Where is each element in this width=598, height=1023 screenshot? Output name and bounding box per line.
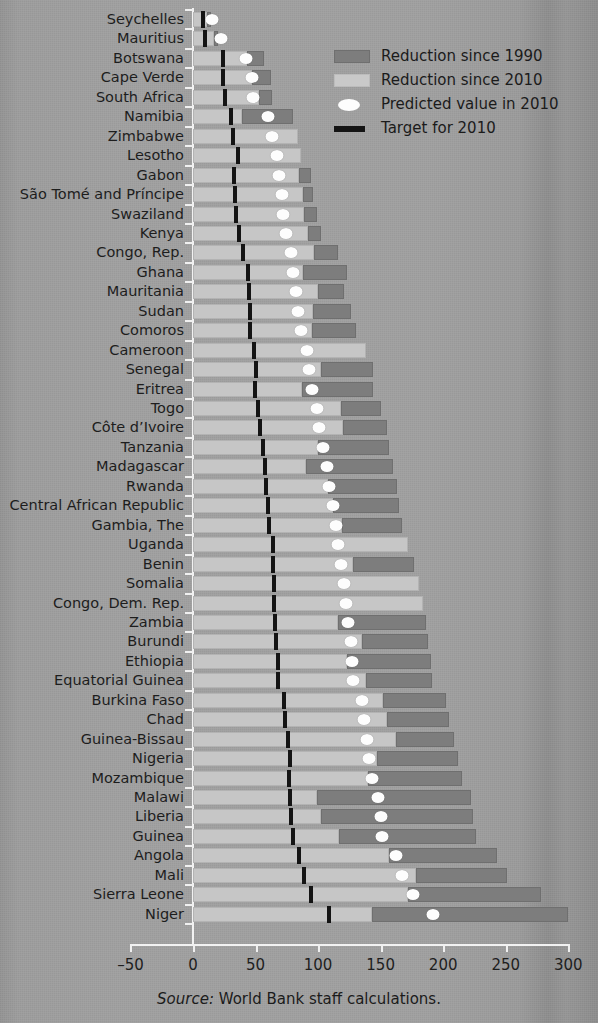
target-2010-marker (273, 614, 277, 631)
x-axis-tick-label: 0 (188, 956, 198, 974)
target-2010-marker (203, 30, 207, 47)
bar-segment-reduction-1990 (377, 751, 458, 766)
source-text: World Bank staff calculations. (214, 990, 441, 1008)
category-label: Burundi (0, 632, 184, 651)
category-label: Ethiopia (0, 652, 184, 671)
predicted-2010-marker (345, 656, 358, 667)
bar-segment-reduction-1990 (362, 634, 428, 649)
bar-group (193, 187, 313, 202)
category-label: Côte d’Ivoire (0, 418, 184, 437)
legend-item-reduction-2010: Reduction since 2010 (334, 68, 574, 92)
x-axis-tick (130, 944, 132, 952)
target-2010-marker (271, 556, 275, 573)
bar-segment-reduction-1990 (347, 654, 431, 669)
legend-label-reduction-1990: Reduction since 1990 (381, 47, 543, 65)
bar-group (193, 207, 317, 222)
predicted-2010-marker (360, 734, 373, 745)
bar-segment-reduction-1990 (353, 557, 414, 572)
target-2010-marker (221, 69, 225, 86)
target-2010-marker (233, 186, 237, 203)
bar-row: Benin (0, 555, 598, 574)
category-label: Seychelles (0, 10, 184, 29)
predicted-2010-marker (289, 286, 302, 297)
bar-segment-reduction-1990 (387, 712, 450, 727)
bar-row: Gabon (0, 166, 598, 185)
bar-group (193, 479, 397, 494)
category-label: Swaziland (0, 205, 184, 224)
bar-row: Côte d’Ivoire (0, 418, 598, 437)
target-2010-marker (246, 264, 250, 281)
predicted-2010-marker (277, 209, 290, 220)
target-2010-marker (237, 225, 241, 242)
bar-segment-reduction-1990 (303, 265, 347, 280)
predicted-2010-marker (375, 831, 388, 842)
bar-row: Mauritania (0, 282, 598, 301)
predicted-2010-marker (317, 442, 330, 453)
target-2010-marker (248, 303, 252, 320)
predicted-2010-marker (372, 792, 385, 803)
bar-group (193, 51, 264, 66)
bar-group (193, 907, 568, 922)
bar-segment-reduction-1990 (321, 362, 374, 377)
x-axis-tick-label: 50 (246, 956, 265, 974)
target-2010-marker (263, 458, 267, 475)
category-label: Equatorial Guinea (0, 671, 184, 690)
target-2010-marker (252, 342, 256, 359)
bar-group (193, 829, 476, 844)
bar-group (193, 693, 446, 708)
bar-segment-reduction-2010 (193, 654, 347, 669)
category-label: Central African Republic (0, 496, 184, 515)
predicted-2010-marker (355, 695, 368, 706)
bar-segment-reduction-1990 (313, 304, 351, 319)
bar-segment-reduction-1990 (304, 207, 317, 222)
predicted-2010-marker (395, 870, 408, 881)
bar-group (193, 70, 271, 85)
bar-row: Comoros (0, 321, 598, 340)
category-label: Angola (0, 846, 184, 865)
bar-group (193, 771, 462, 786)
category-label: Madagascar (0, 457, 184, 476)
target-2010-marker (276, 653, 280, 670)
bar-segment-reduction-2010 (193, 751, 377, 766)
category-label: South Africa (0, 88, 184, 107)
bar-group (193, 226, 321, 241)
bar-segment-reduction-1990 (317, 790, 471, 805)
bar-row: Seychelles (0, 10, 598, 29)
bar-group (193, 304, 351, 319)
bar-group (193, 168, 311, 183)
bar-group (193, 809, 473, 824)
source-prefix: Source: (157, 990, 214, 1008)
bar-segment-reduction-2010 (193, 848, 389, 863)
predicted-2010-marker (407, 889, 420, 900)
bar-row: Guinea (0, 827, 598, 846)
category-label: Botswana (0, 49, 184, 68)
bar-segment-reduction-1990 (318, 284, 344, 299)
bar-group (193, 751, 458, 766)
bar-segment-reduction-1990 (343, 420, 387, 435)
target-2010-marker (223, 89, 227, 106)
x-axis-tick-label: 250 (491, 956, 520, 974)
bar-segment-reduction-2010 (193, 440, 318, 455)
legend-item-predicted-2010: Predicted value in 2010 (334, 92, 574, 116)
category-label: Guinea (0, 827, 184, 846)
bar-row: Malawi (0, 788, 598, 807)
bar-segment-reduction-1990 (368, 771, 462, 786)
category-label: Ghana (0, 263, 184, 282)
target-2010-marker (221, 50, 225, 67)
bar-group (193, 343, 366, 358)
bar-row: Equatorial Guinea (0, 671, 598, 690)
bar-group (193, 790, 471, 805)
bar-row: Ethiopia (0, 652, 598, 671)
category-label: Liberia (0, 807, 184, 826)
predicted-2010-marker (294, 325, 307, 336)
legend-swatch-light-square-icon (334, 74, 370, 87)
bar-segment-reduction-1990 (259, 90, 272, 105)
target-2010-marker (261, 439, 265, 456)
bar-group (193, 109, 293, 124)
bar-segment-reduction-1990 (372, 907, 568, 922)
predicted-2010-marker (292, 306, 305, 317)
predicted-2010-marker (245, 72, 258, 83)
predicted-2010-marker (339, 598, 352, 609)
bar-row: São Tomé and Príncipe (0, 185, 598, 204)
bar-group (193, 31, 218, 46)
